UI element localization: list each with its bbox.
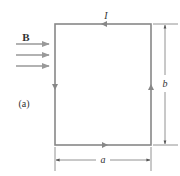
width-label: a: [101, 154, 106, 165]
field-label: B: [22, 31, 30, 43]
arrow-right-icon: [102, 142, 108, 148]
current-loop: [55, 24, 151, 145]
height-label: b: [163, 78, 168, 89]
current-direction-arrows: [52, 21, 154, 148]
current-label: I: [103, 10, 108, 21]
arrow-up-icon: [148, 84, 154, 90]
current-loop-diagram: B (a) I a b: [0, 0, 180, 176]
panel-label: (a): [18, 98, 29, 110]
arrow-left-icon: [101, 21, 107, 27]
arrow-down-icon: [52, 84, 58, 90]
magnetic-field-arrows: [16, 44, 49, 66]
